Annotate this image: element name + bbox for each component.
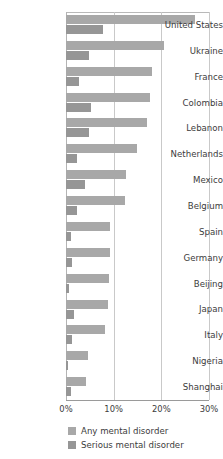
category-label: France bbox=[161, 72, 223, 82]
legend-item[interactable]: Any mental disorder bbox=[68, 424, 218, 438]
category-label: Belgium bbox=[161, 201, 223, 211]
bar-any-mental-disorder[interactable] bbox=[66, 248, 110, 257]
x-tick-label: 10% bbox=[99, 404, 129, 414]
category-label: Germany bbox=[161, 253, 223, 263]
bar-any-mental-disorder[interactable] bbox=[66, 144, 137, 153]
bar-serious-mental-disorder[interactable] bbox=[66, 77, 79, 86]
bar-serious-mental-disorder[interactable] bbox=[66, 258, 72, 267]
bar-any-mental-disorder[interactable] bbox=[66, 196, 125, 205]
bar-serious-mental-disorder[interactable] bbox=[66, 180, 85, 189]
bar-any-mental-disorder[interactable] bbox=[66, 118, 147, 127]
x-tick-label: 30% bbox=[194, 404, 223, 414]
category-label: Spain bbox=[161, 227, 223, 237]
bar-serious-mental-disorder[interactable] bbox=[66, 335, 72, 344]
bar-serious-mental-disorder[interactable] bbox=[66, 103, 91, 112]
bar-serious-mental-disorder[interactable] bbox=[66, 387, 71, 396]
category-label: Italy bbox=[161, 330, 223, 340]
bar-any-mental-disorder[interactable] bbox=[66, 93, 150, 102]
category-label: Lebanon bbox=[161, 123, 223, 133]
category-label: Colombia bbox=[161, 98, 223, 108]
category-label: Shanghai bbox=[161, 382, 223, 392]
bar-any-mental-disorder[interactable] bbox=[66, 67, 152, 76]
legend-item[interactable]: Serious mental disorder bbox=[68, 438, 218, 452]
category-label: United States bbox=[161, 20, 223, 30]
category-label: Nigeria bbox=[161, 356, 223, 366]
bar-serious-mental-disorder[interactable] bbox=[66, 128, 89, 137]
category-label: Mexico bbox=[161, 175, 223, 185]
bar-any-mental-disorder[interactable] bbox=[66, 377, 86, 386]
bar-serious-mental-disorder[interactable] bbox=[66, 206, 77, 215]
legend-swatch-serious-mental-disorder bbox=[68, 441, 76, 449]
bar-any-mental-disorder[interactable] bbox=[66, 222, 110, 231]
legend-label: Serious mental disorder bbox=[81, 440, 184, 450]
bar-chart: United StatesUkraineFranceColombiaLebano… bbox=[0, 0, 223, 459]
category-label: Ukraine bbox=[161, 46, 223, 56]
category-label: Beijing bbox=[161, 279, 223, 289]
bar-any-mental-disorder[interactable] bbox=[66, 325, 105, 334]
x-axis-line bbox=[66, 400, 209, 401]
bar-any-mental-disorder[interactable] bbox=[66, 274, 109, 283]
bar-serious-mental-disorder[interactable] bbox=[66, 284, 69, 293]
bar-any-mental-disorder[interactable] bbox=[66, 300, 108, 309]
bar-any-mental-disorder[interactable] bbox=[66, 351, 88, 360]
bar-any-mental-disorder[interactable] bbox=[66, 170, 126, 179]
bar-serious-mental-disorder[interactable] bbox=[66, 51, 89, 60]
bar-serious-mental-disorder[interactable] bbox=[66, 361, 68, 370]
bar-any-mental-disorder[interactable] bbox=[66, 41, 164, 50]
bar-serious-mental-disorder[interactable] bbox=[66, 25, 103, 34]
bar-serious-mental-disorder[interactable] bbox=[66, 232, 71, 241]
category-label: Netherlands bbox=[161, 149, 223, 159]
legend-swatch-any-mental-disorder bbox=[68, 427, 76, 435]
bar-serious-mental-disorder[interactable] bbox=[66, 310, 74, 319]
x-tick-label: 0% bbox=[51, 404, 81, 414]
bar-serious-mental-disorder[interactable] bbox=[66, 154, 77, 163]
legend-label: Any mental disorder bbox=[81, 426, 168, 436]
x-tick-label: 20% bbox=[146, 404, 176, 414]
chart-legend: Any mental disorder Serious mental disor… bbox=[68, 424, 218, 452]
category-label: Japan bbox=[161, 304, 223, 314]
